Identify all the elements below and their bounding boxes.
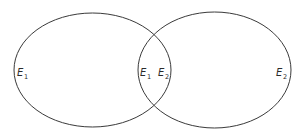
svg-text:1: 1 [24, 73, 28, 81]
svg-text:E: E [276, 67, 283, 78]
svg-text:1: 1 [147, 73, 151, 81]
label-e1-left: E 1 [17, 67, 28, 81]
svg-text:2: 2 [283, 73, 287, 81]
svg-text:E: E [17, 67, 24, 78]
label-e2-right: E 2 [276, 67, 287, 81]
label-e1-intersection: E 1 [140, 67, 151, 81]
svg-text:2: 2 [165, 73, 169, 81]
set-e1-ellipse [14, 13, 171, 127]
venn-diagram: E 1 E 1 E 2 E 2 [0, 0, 304, 134]
label-e2-intersection: E 2 [158, 67, 169, 81]
svg-text:E: E [140, 67, 147, 78]
svg-text:E: E [158, 67, 165, 78]
